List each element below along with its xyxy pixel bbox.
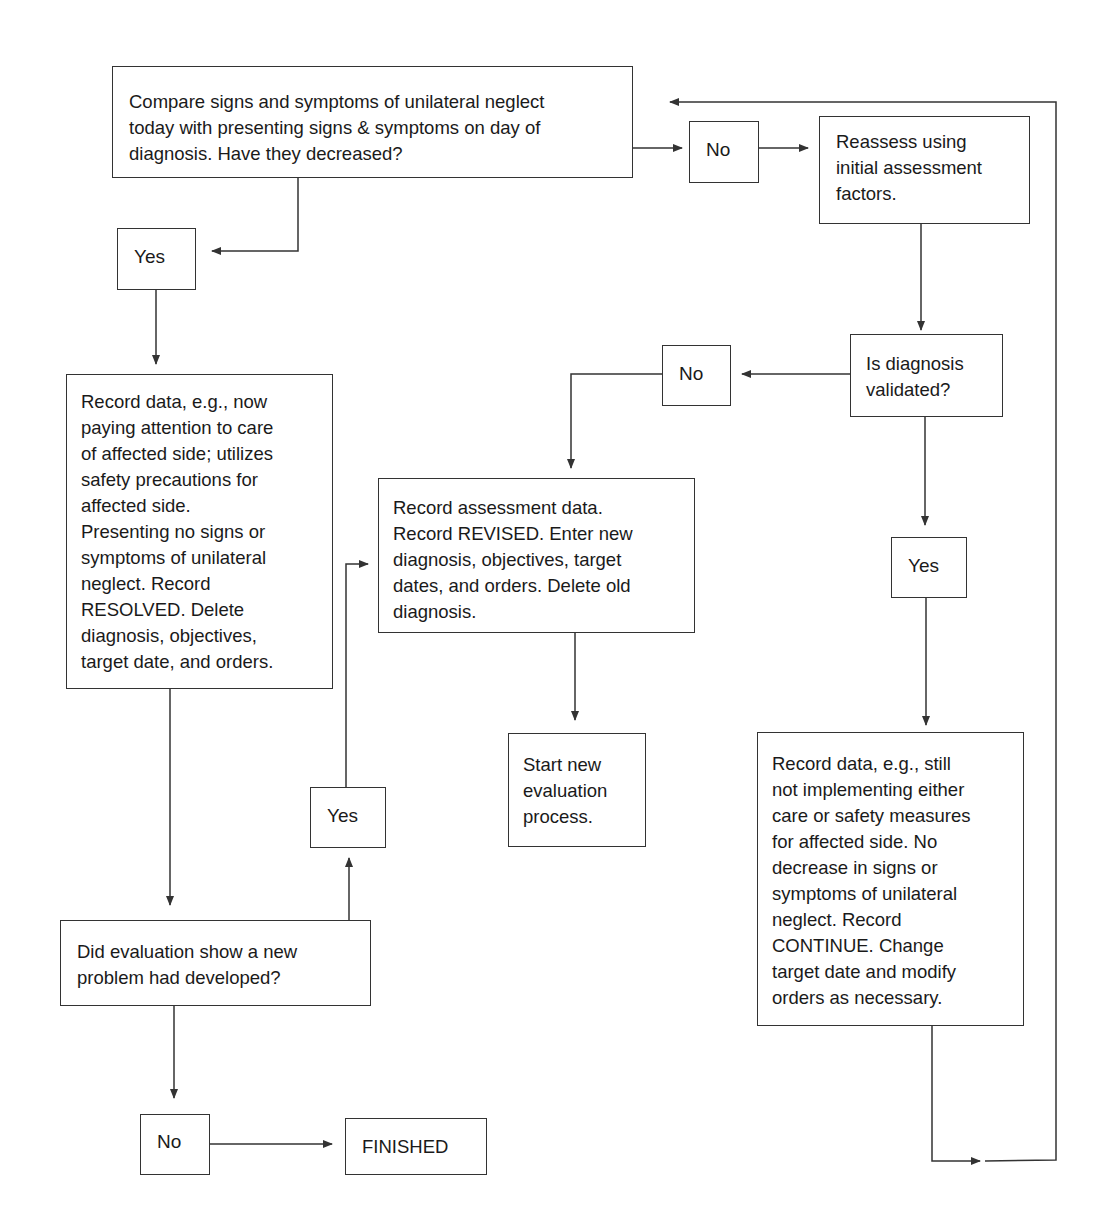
new-problem-box: Did evaluation show a new problem had de… bbox=[60, 920, 371, 1006]
yes-right-label: Yes bbox=[908, 555, 939, 577]
decision-yes-left: Yes bbox=[117, 228, 196, 290]
yes-left-label: Yes bbox=[134, 246, 165, 268]
decision-yes-right: Yes bbox=[891, 537, 967, 598]
finished-box: FINISHED bbox=[345, 1118, 487, 1175]
no-top-label: No bbox=[706, 139, 730, 161]
compare-signs-text: Compare signs and symptoms of unilateral… bbox=[129, 89, 544, 167]
decision-no-top: No bbox=[689, 121, 759, 183]
reassess-text: Reassess using initial assessment factor… bbox=[836, 129, 982, 207]
start-new-evaluation-text: Start new evaluation process. bbox=[523, 752, 607, 830]
decision-no-mid: No bbox=[662, 345, 731, 406]
no-bottom-label: No bbox=[157, 1131, 181, 1153]
record-resolved-text: Record data, e.g., now paying attention … bbox=[81, 389, 273, 675]
record-revised-box: Record assessment data. Record REVISED. … bbox=[378, 478, 695, 633]
diagnosis-validated-box: Is diagnosis validated? bbox=[850, 334, 1003, 417]
yes-mid-label: Yes bbox=[327, 805, 358, 827]
new-problem-text: Did evaluation show a new problem had de… bbox=[77, 939, 297, 991]
record-revised-text: Record assessment data. Record REVISED. … bbox=[393, 495, 633, 625]
compare-signs-box: Compare signs and symptoms of unilateral… bbox=[112, 66, 633, 178]
reassess-box: Reassess using initial assessment factor… bbox=[819, 116, 1030, 224]
no-mid-label: No bbox=[679, 363, 703, 385]
record-continue-text: Record data, e.g., still not implementin… bbox=[772, 751, 970, 1011]
start-new-evaluation-box: Start new evaluation process. bbox=[508, 733, 646, 847]
decision-yes-mid: Yes bbox=[310, 787, 386, 848]
record-resolved-box: Record data, e.g., now paying attention … bbox=[66, 374, 333, 689]
finished-text: FINISHED bbox=[362, 1134, 448, 1160]
record-continue-box: Record data, e.g., still not implementin… bbox=[757, 732, 1024, 1026]
diagnosis-validated-text: Is diagnosis validated? bbox=[866, 351, 964, 403]
decision-no-bottom: No bbox=[140, 1114, 210, 1175]
